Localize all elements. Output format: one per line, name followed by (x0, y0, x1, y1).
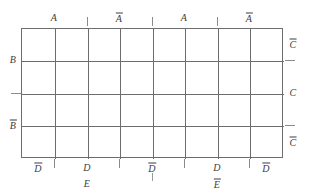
right-label-c: C (290, 88, 297, 98)
bottom-label-d-1: D (83, 163, 90, 173)
right-tick-mark (285, 60, 295, 61)
top-tick-mark (87, 17, 88, 26)
right-tick-mark (285, 125, 295, 126)
outer-bottom-label-e-bar-text: E (214, 179, 220, 190)
top-tick-mark (152, 17, 153, 26)
bottom-label-d-bar-1: D (34, 163, 41, 174)
top-tick-mark (217, 17, 218, 26)
top-label-a-bar-2-text: A (246, 13, 252, 24)
top-label-a-bar-2: A (246, 13, 252, 24)
right-label-c-bar-2-text: C (290, 137, 297, 148)
bottom-label-d-1-text: D (83, 162, 90, 173)
karnaugh-map-diagram: A A A A D D D D D E E B B C C C (0, 0, 317, 196)
left-label-b-text: B (10, 54, 16, 65)
right-label-c-text: C (290, 87, 297, 98)
outer-bottom-label-e-text: E (84, 178, 90, 189)
bottom-label-d-bar-2: D (148, 163, 155, 174)
bottom-tick-mark (249, 159, 250, 168)
bottom-label-d-2: D (213, 163, 220, 173)
bottom-label-d-2-text: D (213, 162, 220, 173)
grid-horizontal-line (22, 94, 284, 95)
e-separator-tick-mark (152, 173, 153, 181)
bottom-label-d-bar-2-text: D (148, 163, 155, 174)
bottom-label-d-bar-1-text: D (34, 163, 41, 174)
top-label-a-1-text: A (51, 12, 57, 23)
bottom-tick-mark (119, 159, 120, 168)
bottom-tick-mark (54, 159, 55, 168)
top-label-a-bar-1: A (116, 13, 122, 24)
left-tick-mark (11, 93, 21, 94)
grid-horizontal-line (22, 61, 284, 62)
left-label-b-bar: B (10, 120, 16, 131)
outer-bottom-label-e: E (84, 179, 90, 189)
left-label-b-bar-text: B (10, 120, 16, 131)
kmap-grid (21, 28, 283, 158)
grid-horizontal-line (22, 126, 284, 127)
top-label-a-1: A (51, 13, 57, 23)
bottom-label-d-bar-3: D (262, 163, 269, 174)
outer-bottom-label-e-bar: E (214, 179, 220, 190)
top-label-a-2: A (181, 13, 187, 23)
right-label-c-bar-1: C (290, 39, 297, 50)
top-label-a-2-text: A (181, 12, 187, 23)
right-label-c-bar-1-text: C (290, 39, 297, 50)
top-label-a-bar-1-text: A (116, 13, 122, 24)
left-label-b: B (10, 55, 16, 65)
bottom-label-d-bar-3-text: D (262, 163, 269, 174)
bottom-tick-mark (184, 159, 185, 168)
right-label-c-bar-2: C (290, 137, 297, 148)
